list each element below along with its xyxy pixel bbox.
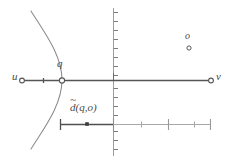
point-o	[187, 46, 191, 50]
point-q	[59, 78, 64, 83]
label-q: q	[57, 58, 63, 69]
label-distance: d(q,o)	[70, 102, 97, 113]
label-distance-symbol: d	[70, 102, 76, 113]
ruler-value-marker	[85, 122, 89, 126]
point-v	[209, 78, 214, 83]
label-v: v	[216, 71, 221, 82]
distance-ruler	[60, 118, 211, 131]
vertical-axis	[114, 8, 119, 156]
point-u	[20, 78, 25, 83]
diagram-canvas: u v q o d(q,o)	[0, 0, 231, 163]
label-u: u	[12, 71, 18, 82]
diagram-svg	[0, 0, 231, 163]
label-o: o	[185, 31, 190, 41]
segment-uv	[22, 73, 211, 83]
label-distance-args: (q,o)	[76, 101, 97, 113]
